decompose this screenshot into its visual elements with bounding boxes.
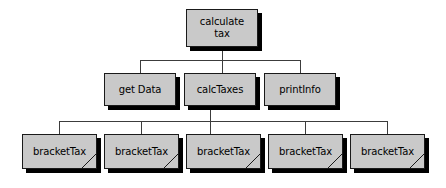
node-bracket-tax-1[interactable]: bracketTax [22,134,97,169]
node-label-bracket-tax-5: bracketTax [361,146,414,158]
node-label-bracket-tax-2: bracketTax [115,146,168,158]
node-get-data[interactable]: get Data [104,73,176,106]
node-label-calculate-tax: calculate tax [200,16,244,40]
node-bracket-tax-2[interactable]: bracketTax [104,134,179,169]
structure-chart-diagram: calculate taxget DatacalcTaxesprintInfob… [0,0,446,188]
node-label-bracket-tax-4: bracketTax [279,146,332,158]
node-label-bracket-tax-1: bracketTax [33,146,86,158]
node-bracket-tax-5[interactable]: bracketTax [350,134,425,169]
node-bracket-tax-4[interactable]: bracketTax [268,134,343,169]
node-label-bracket-tax-3: bracketTax [197,146,250,158]
node-label-print-info: printInfo [279,84,321,96]
node-bracket-tax-3[interactable]: bracketTax [186,134,261,169]
node-label-get-data: get Data [119,84,162,96]
node-calculate-tax[interactable]: calculate tax [186,9,258,47]
node-label-calc-taxes: calcTaxes [197,84,244,96]
node-calc-taxes[interactable]: calcTaxes [184,73,256,106]
node-print-info[interactable]: printInfo [264,73,336,106]
